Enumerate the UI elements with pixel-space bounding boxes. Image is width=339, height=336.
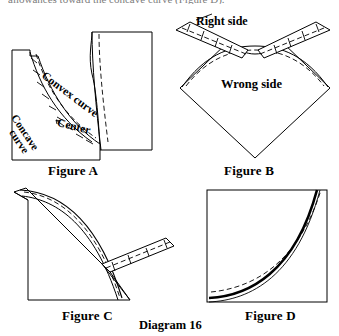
figure-c-caption: Figure C bbox=[62, 308, 113, 324]
right-flap-stitching bbox=[260, 28, 324, 54]
diagram-page: allowances toward the concave curve (Fig… bbox=[0, 0, 339, 336]
figure-c-flap-stitching bbox=[106, 242, 170, 268]
right-side-label: Right side bbox=[196, 14, 248, 29]
left-flap-stitching bbox=[182, 28, 246, 54]
wrong-side-piece bbox=[180, 42, 330, 158]
figure-d-drawing bbox=[203, 186, 335, 308]
diagram-caption: Diagram 16 bbox=[139, 318, 202, 333]
convex-piece-outline bbox=[90, 32, 152, 150]
wrong-side-label: Wrong side bbox=[221, 77, 282, 92]
figure-c-drawing bbox=[6, 186, 176, 308]
figure-c-piece-outline bbox=[14, 188, 130, 300]
clipped-body-text: allowances toward the concave curve (Fig… bbox=[8, 0, 258, 4]
figure-a-caption: Figure A bbox=[48, 163, 98, 179]
figure-d-caption: Figure D bbox=[245, 308, 296, 324]
figure-b-caption: Figure B bbox=[224, 163, 274, 179]
figure-d-panel bbox=[207, 190, 327, 302]
